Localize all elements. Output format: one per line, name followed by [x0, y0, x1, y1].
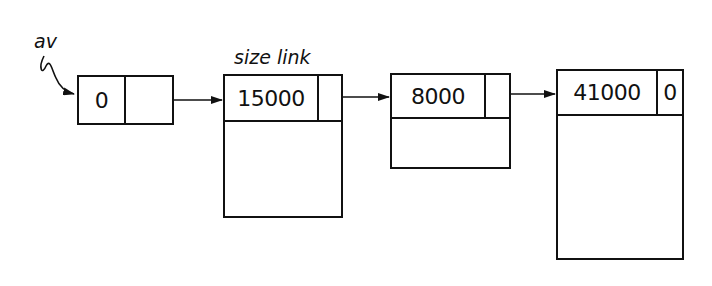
block2-link-cell: [486, 75, 509, 119]
free-block-1: 15000: [223, 74, 343, 218]
av-pointer-squiggle: [41, 56, 74, 94]
av-label: av: [34, 30, 57, 52]
block3-size-cell: 41000: [558, 71, 658, 116]
block2-size-cell: 8000: [392, 75, 486, 119]
head-node: 0: [77, 75, 174, 125]
free-block-2: 8000: [390, 73, 511, 169]
block1-size-cell: 15000: [225, 76, 319, 122]
block3-link-cell: 0: [658, 71, 682, 116]
head-link-cell: [126, 77, 172, 123]
block1-link-cell: [319, 76, 341, 122]
size-link-label: size link: [234, 46, 310, 68]
free-block-3: 41000 0: [556, 69, 684, 260]
head-size-cell: 0: [79, 77, 126, 123]
